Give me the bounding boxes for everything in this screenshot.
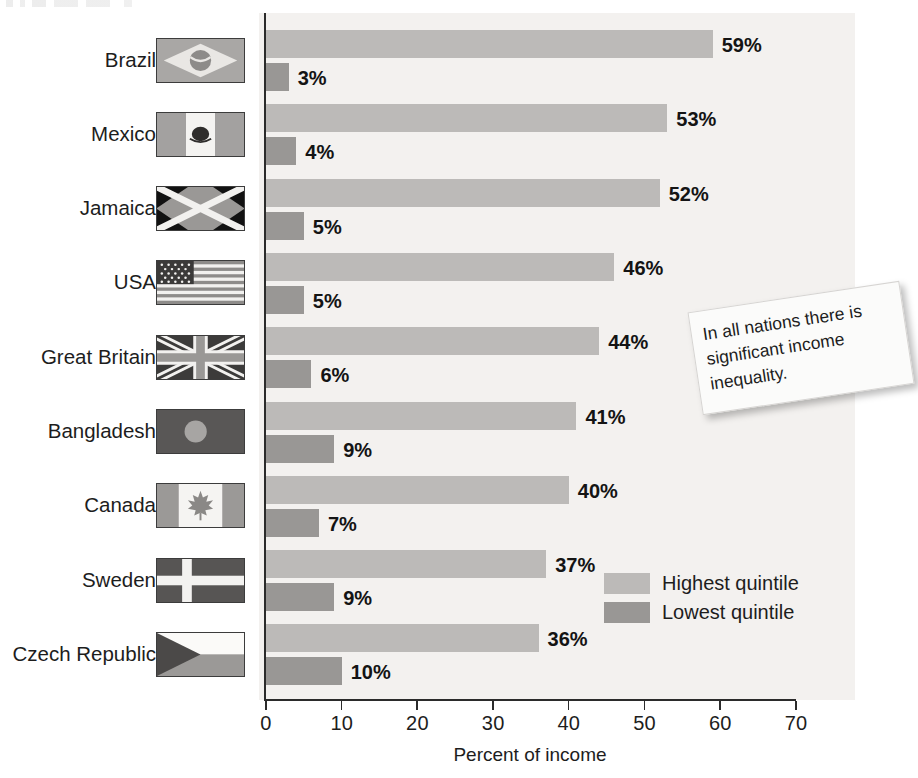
bar-lowest-quintile: [266, 360, 311, 388]
bar-value-highest-quintile: 37%: [555, 554, 595, 577]
bar-highest-quintile: [266, 104, 667, 132]
bar-lowest-quintile: [266, 286, 304, 314]
flag-sweden-icon: [156, 558, 245, 603]
x-tick-label-20: 20: [395, 712, 439, 735]
x-tick-label-60: 60: [698, 712, 742, 735]
bar-value-highest-quintile: 36%: [548, 628, 588, 651]
bar-value-lowest-quintile: 10%: [351, 661, 391, 684]
country-label: Jamaica: [0, 196, 156, 220]
flag-mexico-icon: [156, 112, 245, 157]
x-tick-70: [795, 701, 797, 710]
x-tick-label-70: 70: [774, 712, 818, 735]
bar-lowest-quintile: [266, 435, 334, 463]
bar-value-highest-quintile: 53%: [676, 108, 716, 131]
flag-great-britain-icon: [156, 335, 245, 380]
x-tick-label-30: 30: [471, 712, 515, 735]
country-label: Great Britain: [0, 345, 156, 369]
x-tick-label-40: 40: [547, 712, 591, 735]
bar-value-highest-quintile: 40%: [578, 480, 618, 503]
bar-value-highest-quintile: 46%: [623, 257, 663, 280]
legend-swatch-highest-quintile: [604, 573, 650, 594]
bar-highest-quintile: [266, 476, 569, 504]
x-tick-label-10: 10: [320, 712, 364, 735]
country-label: Sweden: [0, 568, 156, 592]
bar-value-highest-quintile: 41%: [585, 406, 625, 429]
x-axis-line: [264, 699, 796, 701]
bar-value-lowest-quintile: 4%: [305, 141, 334, 164]
country-label: Canada: [0, 493, 156, 517]
bar-value-lowest-quintile: 9%: [343, 587, 372, 610]
x-tick-30: [492, 701, 494, 710]
country-label: Bangladesh: [0, 419, 156, 443]
legend-label-highest-quintile: Highest quintile: [662, 572, 799, 595]
bar-value-lowest-quintile: 7%: [328, 513, 357, 536]
bar-value-lowest-quintile: 5%: [313, 290, 342, 313]
income-inequality-bar-chart: 010203040506070 Percent of income Brazil…: [0, 0, 918, 778]
bar-lowest-quintile: [266, 212, 304, 240]
bar-lowest-quintile: [266, 137, 296, 165]
bar-value-lowest-quintile: 9%: [343, 439, 372, 462]
bar-highest-quintile: [266, 624, 539, 652]
x-tick-10: [341, 701, 343, 710]
chart-legend: Highest quintile Lowest quintile: [604, 570, 799, 628]
bar-value-highest-quintile: 52%: [669, 183, 709, 206]
bar-lowest-quintile: [266, 63, 289, 91]
country-label: USA: [0, 270, 156, 294]
bar-lowest-quintile: [266, 509, 319, 537]
cropped-header-text-sliver: [6, 0, 176, 7]
x-tick-20: [416, 701, 418, 710]
bar-value-highest-quintile: 44%: [608, 331, 648, 354]
legend-item-highest-quintile: Highest quintile: [604, 570, 799, 596]
legend-label-lowest-quintile: Lowest quintile: [662, 601, 794, 624]
bar-highest-quintile: [266, 550, 546, 578]
country-label: Brazil: [0, 48, 156, 72]
bar-highest-quintile: [266, 402, 576, 430]
legend-item-lowest-quintile: Lowest quintile: [604, 599, 799, 625]
x-tick-60: [719, 701, 721, 710]
x-tick-50: [644, 701, 646, 710]
bar-value-highest-quintile: 59%: [722, 34, 762, 57]
flag-canada-icon: [156, 483, 245, 528]
bar-value-lowest-quintile: 5%: [313, 216, 342, 239]
bar-highest-quintile: [266, 179, 660, 207]
flag-czech-republic-icon: [156, 632, 245, 677]
x-axis-title: Percent of income: [264, 744, 796, 766]
bar-lowest-quintile: [266, 657, 342, 685]
flag-brazil-icon: [156, 38, 245, 83]
bar-lowest-quintile: [266, 583, 334, 611]
flag-bangladesh-icon: [156, 409, 245, 454]
flag-usa-icon: [156, 260, 245, 305]
bar-value-lowest-quintile: 3%: [298, 67, 327, 90]
bar-highest-quintile: [266, 253, 614, 281]
bar-value-lowest-quintile: 6%: [320, 364, 349, 387]
x-tick-0: [265, 701, 267, 710]
flag-jamaica-icon: [156, 186, 245, 231]
bar-highest-quintile: [266, 30, 713, 58]
legend-swatch-lowest-quintile: [604, 602, 650, 623]
country-label: Mexico: [0, 122, 156, 146]
x-tick-label-50: 50: [623, 712, 667, 735]
country-label: Czech Republic: [0, 642, 156, 666]
x-tick-40: [568, 701, 570, 710]
bar-highest-quintile: [266, 327, 599, 355]
x-tick-label-0: 0: [244, 712, 288, 735]
